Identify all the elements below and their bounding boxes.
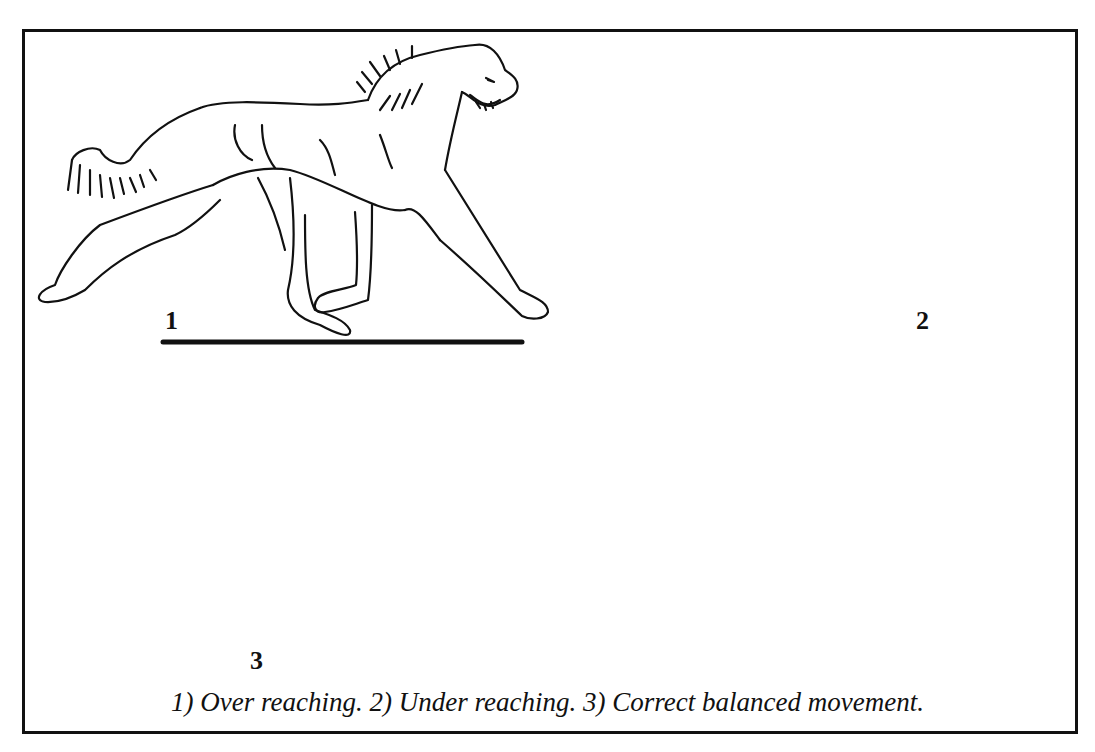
panel-label-1: 1	[165, 308, 178, 334]
panel-label-2: 2	[916, 308, 929, 334]
panel-label-3: 3	[250, 648, 263, 674]
dog-1-over-reaching	[39, 45, 548, 342]
figure-caption: 1) Over reaching. 2) Under reaching. 3) …	[0, 689, 1095, 716]
dog-gait-illustration	[0, 0, 1095, 752]
